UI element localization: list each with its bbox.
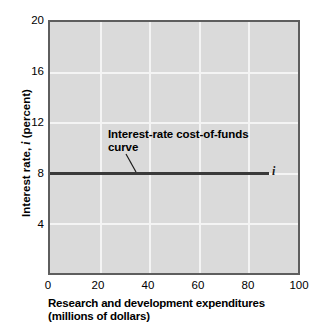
x-tick-20: 20 — [78, 279, 118, 291]
x-tick-80: 80 — [228, 279, 268, 291]
x-axis-title: Research and development expenditures (m… — [48, 297, 310, 322]
x-tick-0: 0 — [28, 279, 68, 291]
x-tick-60: 60 — [178, 279, 218, 291]
plot-inner: Interest-rate cost-of-funds curve — [50, 22, 298, 273]
x-axis-title-line-1: Research and development expenditures — [48, 297, 265, 309]
x-tick-40: 40 — [128, 279, 168, 291]
x-axis-title-line-2: (millions of dollars) — [48, 310, 310, 323]
y-axis-title-symbol: i — [20, 141, 32, 144]
plot-area: Interest-rate cost-of-funds curve — [48, 20, 300, 275]
chart-figure: Interest-rate cost-of-funds curve i 20 1… — [0, 0, 330, 330]
series-symbol-i: i — [272, 164, 275, 179]
x-axis-tick-labels: 0 20 40 60 80 100 — [48, 279, 300, 295]
curve-annotation-line-1: Interest-rate cost-of-funds — [108, 128, 248, 140]
y-axis-title-prefix: Interest rate, — [20, 145, 32, 217]
curve-annotation-line-2: curve — [108, 141, 138, 153]
curve-annotation: Interest-rate cost-of-funds curve — [108, 128, 248, 154]
y-axis-title-suffix: (percent) — [20, 89, 32, 141]
y-tick-20: 20 — [4, 14, 44, 26]
x-tick-100: 100 — [279, 279, 319, 291]
y-axis-title: Interest rate, i (percent) — [20, 48, 32, 258]
